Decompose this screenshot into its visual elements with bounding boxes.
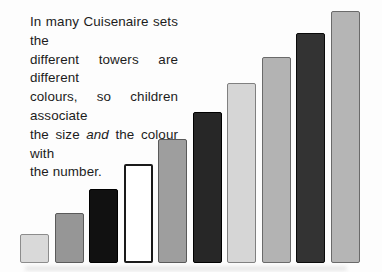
- figure-canvas: In many Cuisenaire sets the different to…: [0, 0, 382, 272]
- bar-tower-3: [89, 189, 118, 263]
- page-scan-shadow: [25, 267, 347, 270]
- bar-tower-2: [55, 213, 84, 263]
- bar-tower-8: [262, 57, 291, 263]
- bar-tower-9: [296, 33, 325, 263]
- bar-tower-4: [124, 164, 153, 263]
- bar-tower-10: [331, 11, 360, 263]
- tower-bars: [0, 0, 382, 272]
- bar-tower-6: [193, 112, 222, 263]
- bar-tower-1: [20, 234, 49, 263]
- bar-tower-7: [227, 83, 256, 263]
- bar-tower-5: [158, 139, 187, 263]
